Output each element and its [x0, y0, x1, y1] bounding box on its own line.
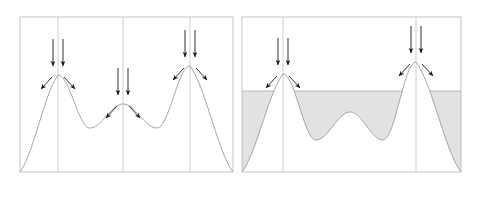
two-panel-figure — [0, 0, 477, 199]
energy-landscape-curve — [20, 66, 233, 172]
split-arrow-2 — [422, 64, 433, 76]
split-arrow-1 — [41, 77, 52, 89]
split-arrow-2 — [129, 106, 140, 118]
split-arrow-1 — [266, 76, 277, 88]
split-arrow-1 — [106, 106, 117, 118]
filled-potential-landscape-clip — [242, 17, 461, 172]
left-panel-group — [20, 17, 233, 172]
unfilled-potential-landscape-frame — [20, 17, 233, 172]
figure-canvas — [0, 0, 477, 199]
split-arrow-2 — [196, 68, 207, 80]
unfilled-potential-landscape-clip — [20, 17, 233, 172]
right-panel-group — [242, 17, 461, 172]
